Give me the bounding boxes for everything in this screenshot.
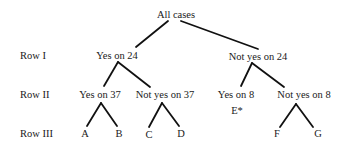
edge-yes37-A [87,103,101,126]
edge-yes24-yes37 [104,62,118,86]
node-yes-on-8: Yes on 8 [218,90,254,101]
edge-all-yes24 [136,21,168,47]
edge-notyes37-D [162,103,179,126]
row-label-3: Row III [20,129,53,140]
node-all-cases: All cases [157,10,195,21]
node-not-yes-on-8: Not yes on 8 [277,90,330,101]
tree-edges [0,0,346,148]
leaf-C: C [145,130,152,141]
edge-notyes24-notyes8 [252,63,284,87]
node-not-yes-on-37: Not yes on 37 [136,90,195,101]
leaf-B: B [115,129,122,140]
leaf-E: E* [231,106,243,117]
row-label-1: Row I [20,51,46,62]
leaf-G: G [314,129,322,140]
node-yes-on-24: Yes on 24 [96,51,138,62]
edge-notyes37-C [149,103,162,127]
edge-all-notyes24 [181,21,258,49]
leaf-A: A [81,129,89,140]
node-yes-on-37: Yes on 37 [79,90,121,101]
edge-yes24-notyes37 [118,62,150,87]
edge-notyes8-F [280,104,296,127]
row-label-2: Row II [20,90,49,101]
edge-notyes24-yes8 [241,63,252,86]
leaf-F: F [274,129,280,140]
node-not-yes-on-24: Not yes on 24 [229,52,288,63]
leaf-D: D [177,129,185,140]
edge-yes37-B [101,103,117,126]
edge-notyes8-G [296,104,313,127]
